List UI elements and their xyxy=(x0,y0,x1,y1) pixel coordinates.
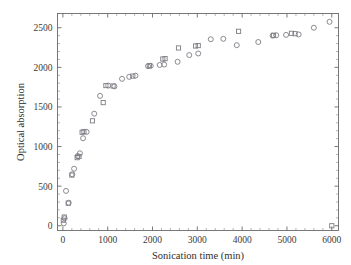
x-tick-label: 4000 xyxy=(233,235,252,245)
data-point-circle xyxy=(120,76,125,81)
data-point-circle xyxy=(284,32,289,37)
data-point-circle xyxy=(208,37,213,42)
data-point-circle xyxy=(64,188,69,193)
x-tick-label: 6000 xyxy=(322,235,341,245)
data-point-square xyxy=(90,119,94,123)
data-point-square xyxy=(176,46,180,50)
data-point-square xyxy=(236,29,240,33)
series-circles xyxy=(61,19,332,226)
y-tick-label: 1000 xyxy=(34,142,53,152)
y-tick-label: 2500 xyxy=(34,23,53,33)
data-point-square xyxy=(101,100,105,104)
y-tick-label: 1500 xyxy=(34,102,53,112)
y-tick-label: 500 xyxy=(38,182,53,192)
series-squares xyxy=(61,29,334,228)
x-tick-label: 1000 xyxy=(98,235,117,245)
x-axis-title: Sonication time (min) xyxy=(152,250,245,262)
data-point-circle xyxy=(221,36,226,41)
figure-container: 0100020003000400050006000050010001500200… xyxy=(0,0,351,265)
scatter-plot: 0100020003000400050006000050010001500200… xyxy=(0,0,351,265)
y-tick-label: 2000 xyxy=(34,63,53,73)
y-axis-title: Optical absorption xyxy=(15,82,26,161)
data-point-circle xyxy=(72,166,77,171)
data-point-circle xyxy=(187,53,192,58)
data-point-circle xyxy=(196,51,201,56)
x-tick-label: 0 xyxy=(61,235,66,245)
x-tick-label: 3000 xyxy=(188,235,207,245)
data-point-circle xyxy=(175,59,180,64)
data-point-circle xyxy=(81,136,86,141)
x-tick-label: 2000 xyxy=(143,235,162,245)
data-point-circle xyxy=(327,19,332,24)
data-point-circle xyxy=(98,93,103,98)
data-point-circle xyxy=(311,25,316,30)
y-tick-label: 0 xyxy=(48,221,53,231)
data-point-circle xyxy=(256,40,261,45)
data-point-circle xyxy=(92,111,97,116)
x-tick-label: 5000 xyxy=(277,235,296,245)
data-point-circle xyxy=(234,43,239,48)
